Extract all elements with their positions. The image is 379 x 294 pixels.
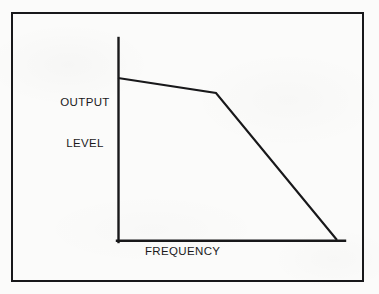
- y-axis-label-line-1: OUTPUT: [56, 96, 114, 110]
- y-axis-label: OUTPUT LEVEL: [56, 69, 114, 177]
- x-axis-label: FREQUENCY: [145, 245, 220, 259]
- figure-canvas: OUTPUT LEVEL FREQUENCY: [0, 0, 379, 294]
- y-axis-label-line-2: LEVEL: [56, 137, 114, 151]
- response-curve: [118, 78, 337, 240]
